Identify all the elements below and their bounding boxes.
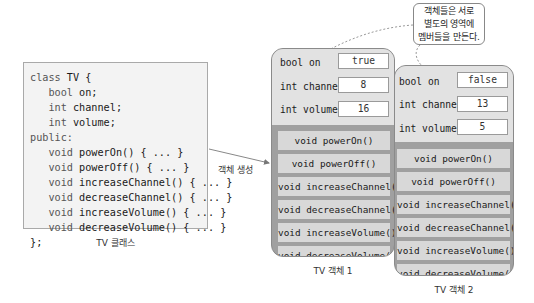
field-label: int volume: [399, 123, 457, 134]
field-value: 8: [338, 77, 389, 93]
field-label: int volume: [280, 104, 338, 115]
method-row: void increaseVolume(): [397, 241, 510, 260]
callout-note: 객체들은 서로 별도의 영역에 멤버들을 만든다.: [413, 3, 485, 45]
object-1-caption: TV 객체 1: [271, 264, 395, 277]
method-row: void increaseVolume(): [278, 223, 390, 242]
field-label: int channel: [399, 99, 463, 110]
create-object-label: 객체 생성: [218, 163, 253, 176]
method-row: void increaseChannel(): [397, 195, 510, 214]
method-row: void powerOn(): [278, 131, 390, 150]
field-value: 5: [457, 119, 508, 135]
object-fields: bool on true int channel 8 int volume 16: [272, 49, 394, 125]
field-label: bool on: [280, 57, 320, 68]
callout-line: 객체들은 서로: [414, 5, 484, 18]
field-value: 16: [338, 101, 389, 117]
field-value: 13: [457, 96, 508, 112]
method-row: void powerOff(): [278, 154, 390, 173]
field-value: false: [457, 72, 508, 88]
field-label: bool on: [399, 76, 439, 87]
field-value: true: [338, 53, 389, 69]
method-row: void decreaseVolume(): [278, 246, 390, 257]
callout-line: 멤버들을 만든다.: [414, 31, 484, 44]
object-fields: bool on false int channel 13 int volume …: [395, 66, 513, 142]
method-row: void decreaseChannel(): [278, 200, 390, 219]
method-row: void decreaseChannel(): [397, 218, 510, 237]
tv-object-1: bool on true int channel 8 int volume 16…: [271, 48, 395, 257]
method-row: void powerOn(): [397, 149, 510, 168]
method-row: void powerOff(): [397, 172, 510, 191]
method-row: void decreaseVolume(): [397, 264, 510, 276]
method-row: void increaseChannel(): [278, 177, 390, 196]
field-label: int channel: [280, 81, 344, 92]
object-2-caption: TV 객체 2: [394, 283, 514, 296]
create-object-arrow: [209, 149, 269, 163]
callout-line: 별도의 영역에: [414, 18, 484, 31]
tv-object-2: bool on false int channel 13 int volume …: [394, 65, 514, 276]
